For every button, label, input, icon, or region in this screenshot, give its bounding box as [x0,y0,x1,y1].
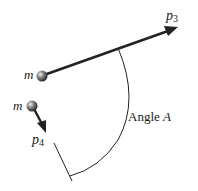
p4-label: p4 [31,132,44,148]
momentum-p4-arrow [33,107,46,133]
mass-ball-1 [37,71,48,82]
angle-label: Angle A [128,109,171,124]
diagram-canvas: m m p3 p4 Angle A [0,0,198,191]
mass-2-label: m [13,98,22,113]
p3-label: p3 [165,8,178,24]
mass-1-label: m [24,67,33,82]
p4-direction-line [54,143,72,181]
angle-arc [70,48,129,176]
mass-ball-2 [27,101,38,112]
momentum-diagram: m m p3 p4 Angle A [0,0,198,191]
momentum-p3-arrow [44,26,178,75]
